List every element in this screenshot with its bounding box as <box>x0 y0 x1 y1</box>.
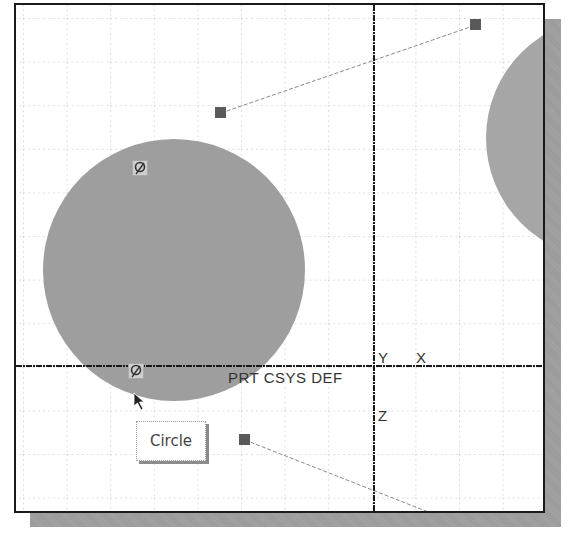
axis-x-label: X <box>416 349 427 366</box>
tooltip-text: Circle <box>150 432 192 450</box>
axis-y-label: Y <box>378 349 389 366</box>
axis-z-label: Z <box>378 407 388 424</box>
tangent-snap-icon <box>128 363 144 379</box>
graphics-viewport[interactable]: PRT CSYS DEF Y X Z Circle <box>14 3 545 513</box>
sketch-canvas[interactable] <box>16 5 543 511</box>
tangent-snap-icon <box>132 160 148 176</box>
endpoint-marker-top-right[interactable] <box>470 19 481 30</box>
csys-label: PRT CSYS DEF <box>228 369 343 386</box>
endpoint-marker-bottom[interactable] <box>239 434 250 445</box>
tooltip: Circle <box>136 421 206 461</box>
endpoint-marker-top-left[interactable] <box>215 107 226 118</box>
circle-main[interactable] <box>43 139 305 401</box>
